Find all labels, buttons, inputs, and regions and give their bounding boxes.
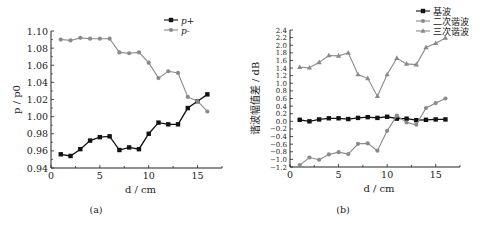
data-point-triangle-marker	[394, 55, 399, 60]
data-point-circle-marker	[336, 150, 340, 154]
data-point-square-marker	[78, 147, 82, 151]
data-point-square-marker	[59, 152, 63, 156]
data-point-circle-marker	[298, 163, 302, 167]
data-point-square-marker	[336, 116, 340, 120]
data-point-square-marker	[346, 117, 350, 121]
x-axis-label: d / cm	[125, 184, 157, 195]
data-point-square-marker	[375, 116, 379, 120]
data-point-square-marker	[404, 116, 408, 120]
data-point-square-marker	[156, 120, 160, 124]
legend-label: p-	[181, 26, 190, 36]
data-point-circle-marker	[147, 61, 151, 65]
data-point-circle-marker	[98, 37, 102, 41]
y-tick-label: 0.2	[276, 110, 287, 118]
data-point-circle-marker	[317, 158, 321, 162]
y-tick-label: 1.08	[27, 43, 48, 54]
legend-entry: 基波	[416, 6, 451, 17]
data-point-square-marker	[88, 138, 92, 142]
legend-square-marker	[421, 9, 425, 13]
series-1	[59, 36, 210, 114]
data-point-square-marker	[117, 148, 121, 152]
y-tick-label: 1.0	[276, 80, 287, 88]
series-line	[61, 94, 208, 156]
data-point-triangle-marker	[317, 60, 322, 65]
data-point-square-marker	[366, 115, 370, 119]
data-point-square-marker	[166, 122, 170, 126]
series-2	[297, 35, 448, 98]
data-point-circle-marker	[307, 155, 311, 159]
chart-a-pressure-ratio: 0.940.960.981.001.021.041.061.081.100510…	[11, 16, 222, 216]
y-tick-label: 0.94	[27, 163, 48, 174]
y-tick-label: 0.4	[276, 103, 288, 111]
data-point-circle-marker	[327, 152, 331, 156]
data-point-square-marker	[98, 135, 102, 139]
x-tick-label: 5	[336, 169, 342, 180]
data-point-square-marker	[317, 117, 321, 121]
y-tick-label: −0.6	[270, 141, 288, 149]
y-tick-label: 2.0	[276, 42, 287, 50]
data-point-circle-marker	[186, 95, 190, 99]
data-point-circle-marker	[78, 36, 82, 40]
data-point-circle-marker	[404, 120, 408, 124]
y-tick-label: −1.0	[270, 156, 287, 164]
data-point-circle-marker	[59, 37, 63, 41]
chart-b-harmonic-difference: −1.2−1.0−0.8−0.6−0.4−0.20.00.20.40.60.81…	[249, 6, 469, 216]
y-tick-label: −1.2	[270, 164, 287, 172]
legend-entry: p-	[164, 26, 190, 36]
legend-circle-marker	[169, 28, 173, 32]
legend-entry: 三次谐波	[416, 26, 469, 37]
y-tick-label: 1.6	[276, 57, 288, 65]
data-point-square-marker	[137, 147, 141, 151]
y-tick-label: 0.0	[276, 118, 287, 126]
figure-caption: (a)	[89, 204, 102, 215]
data-point-circle-marker	[205, 109, 209, 113]
data-point-square-marker	[147, 132, 151, 136]
y-tick-label: 1.06	[27, 60, 48, 71]
data-point-square-marker	[307, 119, 311, 123]
y-tick-label: 2.4	[276, 27, 288, 35]
data-point-circle-marker	[176, 71, 180, 75]
data-point-circle-marker	[137, 50, 141, 54]
data-point-circle-marker	[395, 114, 399, 118]
data-point-square-marker	[443, 117, 447, 121]
series-line	[61, 38, 208, 112]
data-point-circle-marker	[434, 101, 438, 105]
y-axis-label: 谐波幅值差 / dB	[249, 62, 261, 135]
y-tick-label: 1.8	[276, 49, 287, 57]
y-tick-label: 1.4	[276, 65, 288, 73]
legend-entry: 二次谐波	[416, 16, 469, 27]
y-tick-label: 0.8	[276, 87, 287, 95]
x-tick-label: 5	[97, 170, 103, 181]
y-tick-label: 1.2	[276, 72, 287, 80]
x-axis-label: d / cm	[363, 183, 395, 194]
data-point-circle-marker	[424, 106, 428, 110]
y-tick-label: 1.00	[27, 111, 48, 122]
legend-label: 三次谐波	[433, 26, 469, 37]
figure-caption: (b)	[336, 204, 350, 215]
data-point-triangle-marker	[375, 93, 380, 98]
y-tick-label: −0.4	[270, 133, 288, 141]
legend-circle-marker	[421, 19, 425, 23]
data-point-circle-marker	[156, 76, 160, 80]
data-point-circle-marker	[166, 69, 170, 73]
data-point-circle-marker	[68, 38, 72, 42]
y-tick-label: −0.8	[270, 148, 287, 156]
data-point-circle-marker	[88, 37, 92, 41]
data-point-square-marker	[424, 118, 428, 122]
legend-square-marker	[169, 18, 173, 22]
data-point-circle-marker	[117, 50, 121, 54]
x-tick-label: 10	[143, 170, 155, 181]
legend-label: 基波	[433, 6, 451, 17]
legend-entry: p+	[164, 16, 194, 26]
y-tick-label: 1.10	[27, 26, 48, 37]
x-tick-label: 0	[287, 169, 293, 180]
data-point-square-marker	[356, 116, 360, 120]
series-0	[298, 115, 448, 124]
series-1	[298, 96, 448, 167]
data-point-circle-marker	[108, 37, 112, 41]
data-point-circle-marker	[443, 96, 447, 100]
data-point-square-marker	[327, 116, 331, 120]
data-point-triangle-marker	[297, 64, 302, 69]
y-tick-label: 0.96	[27, 145, 48, 156]
data-point-circle-marker	[375, 149, 379, 153]
